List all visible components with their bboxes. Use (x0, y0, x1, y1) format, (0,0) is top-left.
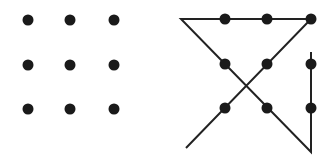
dot (262, 103, 273, 114)
dot (306, 59, 317, 70)
dot (109, 104, 120, 115)
dot (109, 15, 120, 26)
solution-dot-grid (181, 14, 317, 153)
dot (306, 14, 317, 25)
dot (23, 104, 34, 115)
dot (23, 15, 34, 26)
dot (23, 60, 34, 71)
dot (65, 104, 76, 115)
dot (262, 14, 273, 25)
dot (306, 103, 317, 114)
dot (109, 60, 120, 71)
dot (220, 103, 231, 114)
dot (220, 14, 231, 25)
solution-path-line (181, 19, 311, 152)
dot (262, 59, 273, 70)
dot (65, 15, 76, 26)
unsolved-dot-grid (23, 15, 120, 115)
nine-dots-diagram (0, 0, 336, 157)
dot (220, 59, 231, 70)
dot (65, 60, 76, 71)
